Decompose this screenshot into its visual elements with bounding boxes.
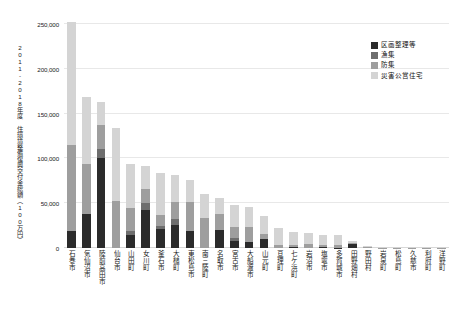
legend-item[interactable]: 災害公営住宅 bbox=[371, 72, 423, 80]
bar-segment[interactable] bbox=[126, 235, 135, 248]
bar-segment[interactable] bbox=[319, 245, 328, 247]
bar-segment[interactable] bbox=[156, 173, 165, 215]
bar-group[interactable] bbox=[408, 247, 417, 248]
x-axis-tick-label: 東松島市 bbox=[186, 250, 193, 278]
bar-segment[interactable] bbox=[141, 210, 150, 248]
bar-group[interactable] bbox=[67, 22, 76, 248]
bar-segment[interactable] bbox=[141, 189, 150, 203]
bar-segment[interactable] bbox=[215, 230, 224, 248]
bar-segment[interactable] bbox=[97, 102, 106, 125]
bar-group[interactable] bbox=[319, 235, 328, 248]
legend-item[interactable]: 漁集 bbox=[371, 51, 423, 59]
bar-group[interactable] bbox=[334, 235, 343, 248]
bar-segment[interactable] bbox=[186, 231, 195, 248]
x-axis-tick-label: 石巻市 bbox=[68, 250, 75, 271]
bar-segment[interactable] bbox=[215, 214, 224, 230]
bar-group[interactable] bbox=[97, 102, 106, 248]
bar-segment[interactable] bbox=[260, 239, 269, 248]
bar-segment[interactable] bbox=[126, 208, 135, 231]
bar-segment[interactable] bbox=[245, 227, 254, 242]
bar-group[interactable] bbox=[126, 164, 135, 248]
bar-segment[interactable] bbox=[82, 97, 91, 163]
bar-segment[interactable] bbox=[304, 244, 313, 248]
bar-segment[interactable] bbox=[67, 145, 76, 231]
bar-segment[interactable] bbox=[230, 238, 239, 242]
bar-segment[interactable] bbox=[348, 244, 357, 248]
bar-segment[interactable] bbox=[334, 245, 343, 247]
bar-segment[interactable] bbox=[230, 227, 239, 238]
bar-segment[interactable] bbox=[348, 243, 357, 244]
bar-group[interactable] bbox=[289, 232, 298, 248]
bar-segment[interactable] bbox=[126, 231, 135, 235]
bar-group[interactable] bbox=[200, 194, 209, 248]
bar-segment[interactable] bbox=[363, 246, 372, 247]
legend-item[interactable]: 防集 bbox=[371, 61, 423, 69]
bar-group[interactable] bbox=[186, 180, 195, 248]
bar-group[interactable] bbox=[304, 233, 313, 248]
bar-segment[interactable] bbox=[215, 198, 224, 214]
bar-segment[interactable] bbox=[156, 215, 165, 226]
bar-segment[interactable] bbox=[319, 247, 328, 248]
bar-segment[interactable] bbox=[363, 247, 372, 248]
y-axis-tick-label: 0 bbox=[56, 245, 59, 252]
bar-segment[interactable] bbox=[200, 218, 209, 248]
bar-group[interactable] bbox=[363, 246, 372, 248]
bar-segment[interactable] bbox=[141, 203, 150, 210]
bar-segment[interactable] bbox=[67, 22, 76, 145]
bar-segment[interactable] bbox=[393, 247, 402, 248]
bar-group[interactable] bbox=[260, 216, 269, 248]
bar-group[interactable] bbox=[378, 247, 387, 248]
bar-segment[interactable] bbox=[82, 214, 91, 248]
bar-segment[interactable] bbox=[200, 194, 209, 218]
bar-segment[interactable] bbox=[348, 241, 357, 243]
bar-segment[interactable] bbox=[274, 245, 283, 248]
bar-segment[interactable] bbox=[126, 164, 135, 208]
bar-group[interactable] bbox=[171, 175, 180, 248]
bar-segment[interactable] bbox=[97, 125, 106, 149]
bar-segment[interactable] bbox=[112, 128, 121, 201]
bar-group[interactable] bbox=[230, 205, 239, 248]
bar-segment[interactable] bbox=[304, 233, 313, 244]
bar-group[interactable] bbox=[245, 207, 254, 248]
bar-segment[interactable] bbox=[186, 180, 195, 202]
bar-segment[interactable] bbox=[260, 234, 269, 239]
bar-segment[interactable] bbox=[97, 158, 106, 248]
bar-group[interactable] bbox=[348, 241, 357, 248]
bar-segment[interactable] bbox=[186, 202, 195, 231]
bar-segment[interactable] bbox=[171, 202, 180, 219]
bar-segment[interactable] bbox=[230, 205, 239, 227]
bar-group[interactable] bbox=[156, 173, 165, 248]
bar-segment[interactable] bbox=[156, 229, 165, 248]
bar-group[interactable] bbox=[215, 198, 224, 248]
legend-item[interactable]: 区画整理等 bbox=[371, 41, 423, 49]
bar-segment[interactable] bbox=[289, 232, 298, 245]
bar-segment[interactable] bbox=[171, 219, 180, 224]
bar-segment[interactable] bbox=[245, 207, 254, 227]
bar-group[interactable] bbox=[112, 128, 121, 248]
bar-segment[interactable] bbox=[141, 166, 150, 189]
bar-segment[interactable] bbox=[245, 242, 254, 248]
bar-group[interactable] bbox=[437, 247, 446, 248]
bar-group[interactable] bbox=[422, 247, 431, 248]
bar-segment[interactable] bbox=[82, 164, 91, 214]
bar-group[interactable] bbox=[141, 166, 150, 248]
bar-segment[interactable] bbox=[67, 231, 76, 248]
bar-segment[interactable] bbox=[319, 235, 328, 245]
bar-segment[interactable] bbox=[156, 226, 165, 230]
x-axis-tick-label: 松島町 bbox=[394, 250, 401, 271]
bar-segment[interactable] bbox=[289, 245, 298, 246]
bar-segment[interactable] bbox=[260, 216, 269, 234]
bar-segment[interactable] bbox=[378, 247, 387, 248]
bar-group[interactable] bbox=[82, 97, 91, 248]
bar-group[interactable] bbox=[393, 247, 402, 248]
bar-segment[interactable] bbox=[274, 228, 283, 245]
bar-segment[interactable] bbox=[289, 247, 298, 248]
bar-segment[interactable] bbox=[230, 241, 239, 248]
bar-segment[interactable] bbox=[171, 225, 180, 248]
bar-segment[interactable] bbox=[334, 235, 343, 246]
bar-segment[interactable] bbox=[97, 149, 106, 158]
bar-segment[interactable] bbox=[171, 175, 180, 202]
bar-segment[interactable] bbox=[112, 201, 121, 248]
bar-group[interactable] bbox=[274, 228, 283, 248]
x-axis-tick-label: 女川町 bbox=[142, 250, 149, 271]
